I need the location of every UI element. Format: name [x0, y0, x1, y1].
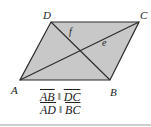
vertex-label-b: B	[110, 87, 117, 98]
vertex-label-c: C	[140, 10, 147, 21]
statement-ab-parallel-dc: AB ‖ DC	[40, 90, 100, 103]
vertex-label-d: D	[43, 10, 51, 21]
diagonal-label-e: e	[102, 38, 106, 48]
segment-ad: AD	[40, 104, 56, 116]
parallelogram-diagram: D C A B f e AB ‖ DC AD ‖ BC	[0, 0, 151, 127]
parallel-symbol: ‖	[59, 104, 62, 115]
parallel-symbol: ‖	[58, 91, 61, 102]
parallel-statements: AB ‖ DC AD ‖ BC	[40, 90, 100, 116]
segment-dc: DC	[64, 91, 81, 103]
diagonal-label-f: f	[69, 27, 72, 37]
segment-bc: BC	[65, 104, 80, 116]
statement-ad-parallel-bc: AD ‖ BC	[40, 103, 100, 116]
vertex-label-a: A	[11, 85, 18, 96]
segment-ab: AB	[40, 91, 55, 103]
bottom-divider	[0, 124, 151, 126]
